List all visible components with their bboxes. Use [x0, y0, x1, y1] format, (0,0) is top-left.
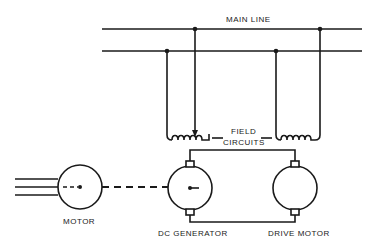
armature-loop: [190, 150, 295, 162]
dc-generator-label: DC GENERATOR: [158, 229, 228, 238]
motor-field-circuit: [276, 29, 320, 140]
junction-dot: [318, 27, 323, 32]
generator-field-circuit: [167, 29, 209, 140]
main-line-label: MAIN LINE: [226, 15, 271, 24]
ward-leonard-diagram: MAIN LINE FIELD CIRCUITS MOTOR DC GENERA…: [0, 0, 376, 251]
junction-dot: [274, 49, 279, 54]
field-circuits-label-2: CIRCUITS: [223, 138, 265, 147]
field-circuits-label-1: FIELD: [231, 127, 256, 136]
junction-dot: [193, 27, 198, 32]
motor-label: MOTOR: [63, 217, 95, 226]
drive-motor-symbol: [273, 166, 317, 210]
drive-motor-label: DRIVE MOTOR: [268, 229, 330, 238]
junction-dot: [165, 49, 170, 54]
